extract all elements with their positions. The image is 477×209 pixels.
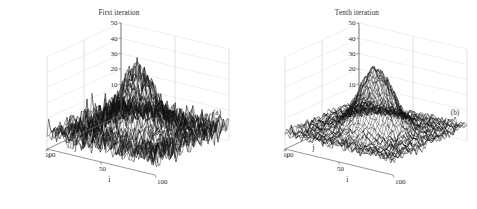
svg-text:20: 20: [110, 65, 118, 73]
figure-two-panel-surface-plots: First iteration -10010203040501501001501…: [0, 0, 477, 209]
panel-a-title: First iteration: [0, 9, 238, 17]
svg-text:0: 0: [352, 96, 356, 104]
panel-a-plot: -1001020304050150100150100ij(a): [0, 18, 238, 204]
svg-text:i: i: [108, 175, 110, 184]
svg-text:100: 100: [395, 178, 406, 186]
svg-text:i: i: [346, 175, 348, 184]
panel-b-title: Tenth iteration: [238, 9, 476, 17]
svg-text:50: 50: [110, 19, 118, 27]
svg-text:100: 100: [45, 151, 56, 159]
svg-text:40: 40: [110, 35, 118, 43]
svg-text:(a): (a): [213, 108, 222, 117]
svg-text:50: 50: [348, 19, 356, 27]
panel-b: Tenth iteration -10010203040501501001501…: [238, 0, 476, 209]
svg-text:-10: -10: [346, 111, 356, 119]
svg-text:j: j: [311, 143, 314, 152]
svg-text:40: 40: [348, 35, 356, 43]
svg-text:50: 50: [80, 134, 88, 142]
svg-text:100: 100: [157, 178, 168, 186]
svg-text:50: 50: [99, 165, 107, 173]
panel-a: First iteration -10010203040501501001501…: [0, 0, 238, 209]
svg-text:100: 100: [283, 151, 294, 159]
svg-text:50: 50: [318, 134, 326, 142]
svg-text:20: 20: [348, 65, 356, 73]
svg-text:-10: -10: [108, 111, 118, 119]
svg-text:1: 1: [118, 118, 122, 126]
svg-text:50: 50: [337, 165, 345, 173]
svg-text:10: 10: [348, 81, 356, 89]
svg-text:10: 10: [110, 81, 118, 89]
svg-text:1: 1: [356, 118, 360, 126]
svg-text:(b): (b): [451, 108, 460, 117]
svg-text:0: 0: [114, 96, 118, 104]
svg-text:j: j: [73, 143, 76, 152]
svg-text:30: 30: [110, 50, 118, 58]
panel-b-plot: -1001020304050150100150100ij(b): [238, 18, 476, 204]
svg-text:30: 30: [348, 50, 356, 58]
